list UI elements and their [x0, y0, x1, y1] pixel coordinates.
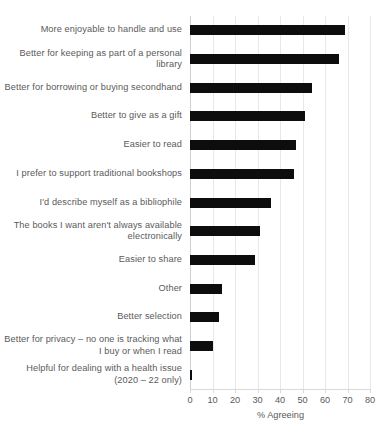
category-label: Easier to share	[0, 254, 182, 266]
bar-row	[190, 284, 370, 294]
category-axis-labels: More enjoyable to handle and useBetter f…	[0, 16, 186, 389]
bar	[190, 341, 213, 351]
category-label: Better for keeping as part of a personal…	[0, 48, 182, 71]
tick-10	[213, 389, 214, 393]
category-label: Better for privacy – no one is tracking …	[0, 334, 182, 357]
category-label: I'd describe myself as a bibliophile	[0, 197, 182, 209]
bar-row	[190, 198, 370, 208]
bar-row	[190, 255, 370, 265]
tick-label-50: 50	[297, 394, 307, 406]
bar-series	[190, 16, 370, 389]
tick-label-80: 80	[365, 394, 375, 406]
category-label: Better selection	[0, 311, 182, 323]
tick-label-20: 20	[230, 394, 240, 406]
bar	[190, 83, 312, 93]
value-axis-ticks	[190, 389, 371, 393]
bar	[190, 370, 192, 380]
tick-40	[280, 389, 281, 393]
bar-row	[190, 140, 370, 150]
bar	[190, 54, 339, 64]
tick-70	[348, 389, 349, 393]
tick-50	[303, 389, 304, 393]
bar-row	[190, 370, 370, 380]
gridline-80	[370, 16, 371, 389]
bar	[190, 198, 271, 208]
tick-0	[190, 389, 191, 393]
tick-60	[325, 389, 326, 393]
bar	[190, 226, 260, 236]
tick-label-30: 30	[252, 394, 262, 406]
clipped-chart-title	[0, 0, 379, 10]
bar	[190, 25, 345, 35]
category-label: Better to give as a gift	[0, 110, 182, 122]
value-axis-tick-labels: 01020304050607080	[190, 394, 371, 408]
tick-label-40: 40	[275, 394, 285, 406]
bar	[190, 111, 305, 121]
tick-label-0: 0	[187, 394, 192, 406]
bar-row	[190, 169, 370, 179]
category-label: Helpful for dealing with a health issue …	[0, 363, 182, 386]
bar-row	[190, 25, 370, 35]
bar-row	[190, 226, 370, 236]
category-label: The books I want aren't always available…	[0, 220, 182, 243]
category-label: Better for borrowing or buying secondhan…	[0, 82, 182, 94]
bar-row	[190, 312, 370, 322]
bar-row	[190, 111, 370, 121]
tick-label-10: 10	[207, 394, 217, 406]
bar-row	[190, 54, 370, 64]
bar	[190, 312, 219, 322]
category-label: I prefer to support traditional bookshop…	[0, 168, 182, 180]
bar	[190, 140, 296, 150]
value-axis-title: % Agreeing	[190, 409, 371, 421]
tick-label-60: 60	[320, 394, 330, 406]
tick-label-70: 70	[342, 394, 352, 406]
bar-row	[190, 83, 370, 93]
bar-chart: More enjoyable to handle and useBetter f…	[0, 0, 379, 434]
bar	[190, 255, 255, 265]
tick-30	[258, 389, 259, 393]
tick-20	[235, 389, 236, 393]
bar-row	[190, 341, 370, 351]
bar	[190, 169, 294, 179]
bar	[190, 284, 222, 294]
category-label: Easier to read	[0, 139, 182, 151]
category-label: Other	[0, 283, 182, 295]
plot-area	[190, 16, 370, 389]
category-label: More enjoyable to handle and use	[0, 24, 182, 36]
tick-80	[370, 389, 371, 393]
